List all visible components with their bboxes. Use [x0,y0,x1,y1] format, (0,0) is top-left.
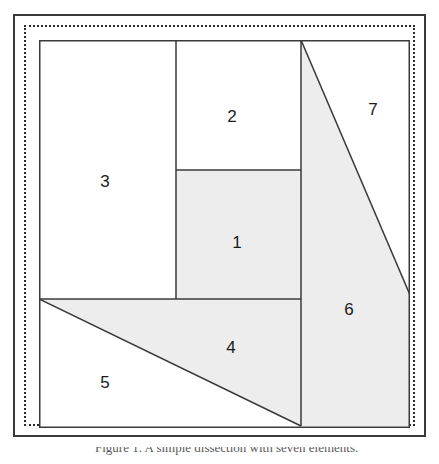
diagram-canvas: 1 2 3 4 5 6 7 [39,40,410,428]
dissection-diagram [39,40,410,428]
figure-page: 1 2 3 4 5 6 7 Figure 1. A simple dissect… [0,0,439,464]
caption-strip: Figure 1. A simple dissection with seven… [0,447,439,464]
region-label-1: 1 [232,234,241,251]
region-2-shape [176,40,301,170]
region-label-3: 3 [100,173,109,190]
region-label-4: 4 [226,339,235,356]
region-label-5: 5 [100,374,109,391]
region-label-6: 6 [344,301,353,318]
region-3-shape [39,40,176,299]
region-label-7: 7 [368,101,377,118]
outer-frame: 1 2 3 4 5 6 7 [13,14,426,437]
region-label-2: 2 [227,108,236,125]
figure-caption: Figure 1. A simple dissection with seven… [95,447,358,456]
